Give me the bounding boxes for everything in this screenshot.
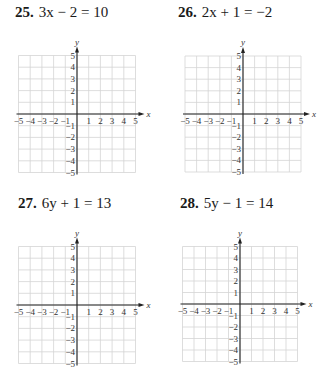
x-axis-label: x <box>308 299 313 309</box>
coordinate-grid-28: xy−5−4−3−2−11234554321−1−2−3−4−5 <box>0 0 327 367</box>
y-tick-label: −2 <box>228 322 238 332</box>
y-tick-label: −5 <box>228 357 238 367</box>
x-tick-label: −3 <box>201 306 211 316</box>
x-tick-label: 1 <box>249 306 254 316</box>
y-tick-label: 5 <box>234 242 239 252</box>
y-arrow-icon <box>238 238 242 244</box>
y-tick-label: −1 <box>228 311 238 321</box>
x-tick-label: 2 <box>261 306 266 316</box>
x-tick-label: 5 <box>295 306 300 316</box>
x-tick-label: −4 <box>189 306 199 316</box>
y-tick-label: 4 <box>234 253 239 263</box>
y-tick-label: −3 <box>228 334 238 344</box>
y-tick-label: 2 <box>234 276 239 286</box>
x-arrow-icon <box>301 302 307 306</box>
x-tick-label: −2 <box>212 306 222 316</box>
x-tick-label: −5 <box>178 306 188 316</box>
y-tick-label: 1 <box>234 288 239 298</box>
y-tick-label: 3 <box>234 265 239 275</box>
y-axis-label: y <box>237 228 242 238</box>
y-tick-label: −4 <box>228 345 238 355</box>
x-tick-label: 3 <box>272 306 277 316</box>
x-tick-label: 4 <box>284 306 289 316</box>
